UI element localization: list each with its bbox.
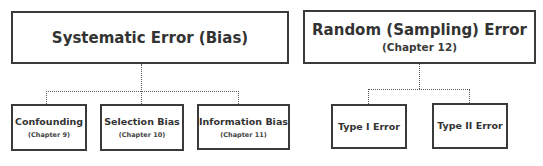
type-one-connector	[368, 89, 369, 104]
random-trunk-connector	[419, 64, 420, 89]
random-error-box: Random (Sampling) Error (Chapter 12)	[303, 10, 536, 64]
type-one-error-box: Type I Error	[331, 104, 407, 149]
confounding-connector	[46, 91, 47, 104]
selection-bias-box: Selection Bias (Chapter 10)	[100, 104, 184, 151]
selection-bias-chapter: (Chapter 10)	[119, 131, 165, 139]
information-bias-title: Information Bias	[199, 116, 288, 128]
confounding-box: Confounding (Chapter 9)	[11, 104, 87, 151]
type-two-error-title: Type II Error	[437, 120, 503, 132]
type-one-error-title: Type I Error	[338, 121, 400, 133]
systematic-error-title: Systematic Error (Bias)	[52, 29, 248, 47]
information-bias-box: Information Bias (Chapter 11)	[197, 104, 290, 150]
random-error-title: Random (Sampling) Error	[312, 21, 527, 39]
information-bias-connector	[238, 91, 239, 104]
random-error-chapter: (Chapter 12)	[382, 41, 457, 53]
type-two-connector	[469, 89, 470, 103]
information-bias-chapter: (Chapter 11)	[220, 131, 266, 139]
random-branch-connector	[368, 89, 470, 90]
systematic-branch-connector	[46, 91, 239, 92]
systematic-error-box: Systematic Error (Bias)	[11, 11, 289, 64]
type-two-error-box: Type II Error	[432, 103, 508, 149]
confounding-title: Confounding	[15, 116, 83, 128]
confounding-chapter: (Chapter 9)	[28, 131, 70, 139]
systematic-trunk-connector	[141, 64, 142, 104]
selection-bias-title: Selection Bias	[104, 116, 180, 128]
